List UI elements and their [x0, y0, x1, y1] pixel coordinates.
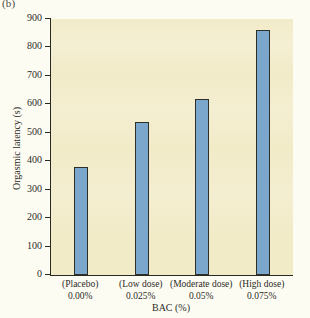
y-tick: 300 [45, 189, 51, 190]
y-tick-label: 300 [27, 183, 42, 194]
y-tick: 900 [45, 18, 51, 19]
y-tick-label: 100 [27, 240, 42, 251]
bar [195, 99, 209, 275]
y-tick: 800 [45, 46, 51, 47]
y-tick-label: 700 [27, 69, 42, 80]
bar [256, 30, 270, 275]
y-tick: 500 [45, 132, 51, 133]
y-tick: 200 [45, 217, 51, 218]
y-tick-label: 400 [27, 154, 42, 165]
bar [74, 167, 88, 275]
y-tick-label: 500 [27, 126, 42, 137]
x-axis-title: BAC (%) [50, 302, 292, 313]
y-tick: 100 [45, 246, 51, 247]
y-tick: 600 [45, 103, 51, 104]
x-tick-label-bac: 0.075% [226, 290, 299, 302]
panel-label: (b) [2, 0, 15, 9]
plot-area: 0100200300400500600700800900 [50, 19, 293, 276]
figure-panel-b: (b) Orgasmic latency (s) 010020030040050… [0, 0, 310, 318]
y-tick-label: 900 [27, 12, 42, 23]
y-tick: 700 [45, 75, 51, 76]
y-tick-label: 0 [37, 268, 42, 279]
y-tick: 400 [45, 160, 51, 161]
x-tick-label-dose: (High dose) [226, 278, 299, 290]
y-tick-label: 600 [27, 97, 42, 108]
y-tick-label: 200 [27, 211, 42, 222]
x-tick-label-group: (High dose)0.075% [226, 278, 299, 302]
y-tick-label: 800 [27, 40, 42, 51]
y-axis-title: Orgasmic latency (s) [11, 54, 22, 244]
bar [135, 122, 149, 275]
y-tick: 0 [45, 274, 51, 275]
